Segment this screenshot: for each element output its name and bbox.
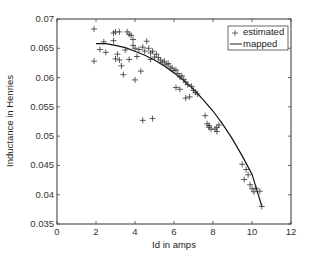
- y-tick-label: 0.06: [36, 72, 55, 83]
- x-tick-label: 6: [171, 226, 176, 237]
- x-tick-label: 0: [54, 226, 59, 237]
- y-tick-label: 0.035: [30, 218, 54, 229]
- scatter-chart: 024681012 0.0350.040.0450.050.0550.060.0…: [0, 0, 310, 258]
- y-tick-label: 0.045: [30, 159, 54, 170]
- y-tick-labels: 0.0350.040.0450.050.0550.060.0650.07: [30, 13, 54, 229]
- y-tick-label: 0.04: [36, 189, 55, 200]
- y-axis-label: Inductance in Henries: [4, 75, 15, 167]
- y-tick-label: 0.055: [30, 101, 54, 112]
- legend-label-mapped: mapped: [243, 38, 277, 49]
- x-tick-label: 4: [132, 226, 137, 237]
- legend-label-estimated: estimated: [243, 26, 284, 37]
- x-tick-label: 2: [93, 226, 98, 237]
- x-tick-labels: 024681012: [54, 226, 296, 237]
- x-axis-label: Id in amps: [152, 239, 196, 250]
- y-tick-label: 0.07: [36, 13, 55, 24]
- x-tick-label: 10: [247, 226, 258, 237]
- x-tick-label: 12: [286, 226, 297, 237]
- y-tick-label: 0.05: [36, 130, 55, 141]
- x-tick-label: 8: [210, 226, 215, 237]
- legend: estimated mapped: [228, 26, 288, 50]
- y-tick-label: 0.065: [30, 42, 54, 53]
